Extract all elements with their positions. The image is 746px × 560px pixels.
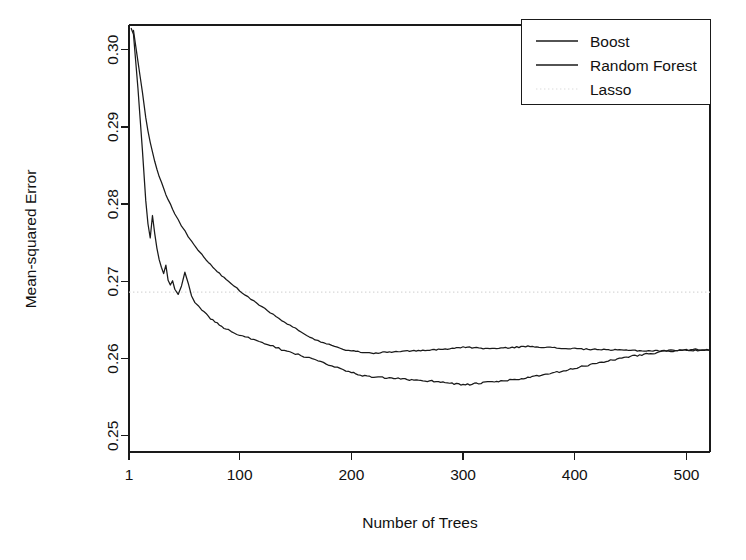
y-tick-label: 0.30 [104,34,121,65]
y-axis-title: Mean-squared Error [22,170,39,309]
y-tick-label: 0.25 [104,421,121,451]
x-tick-label: 1 [125,466,134,483]
y-axis-title-text: Mean-squared Error [22,170,39,309]
chart-figure: 0.250.260.270.280.290.30 110020030040050… [0,0,746,560]
x-axis-tick-labels: 1100200300400500 [125,466,700,483]
y-tick-label: 0.28 [104,189,121,219]
y-tick-label: 0.27 [104,266,121,296]
x-tick-label: 300 [450,466,476,483]
y-axis-tick-marks [121,50,129,436]
x-axis-title: Number of Trees [362,514,478,531]
y-tick-label: 0.29 [104,112,121,142]
y-tick-label: 0.26 [104,343,121,373]
x-tick-label: 100 [227,466,253,483]
x-axis-tick-marks [129,452,687,460]
x-tick-label: 200 [338,466,364,483]
x-tick-label: 400 [562,466,588,483]
x-axis-title-text: Number of Trees [362,514,478,531]
legend-label-boost: Boost [590,33,630,50]
legend-label-random-forest: Random Forest [590,57,698,74]
legend-label-lasso: Lasso [590,81,631,98]
x-tick-label: 500 [674,466,700,483]
mse-vs-trees-line-chart: 0.250.260.270.280.290.30 110020030040050… [0,0,746,560]
y-axis-tick-labels: 0.250.260.270.280.290.30 [104,34,121,451]
chart-legend: BoostRandom ForestLasso [522,20,711,105]
